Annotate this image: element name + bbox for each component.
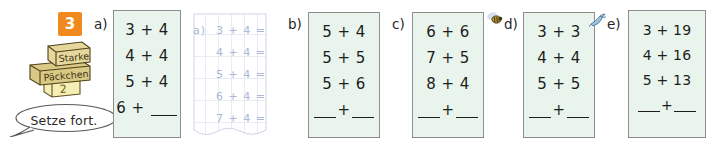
equation-row-open[interactable]: + [528,103,589,118]
equation-row: 4 + 4 [125,49,169,64]
grid-label: a) [193,24,206,37]
exercise-number-badge: 3 [58,12,82,36]
open-row-operator: + [661,97,673,113]
part-label-c: c) [392,16,405,32]
open-row-operator: + [441,101,454,119]
card-c: 6 + 6 7 + 5 8 + 4 + [412,12,484,138]
card-a: 3 + 4 4 + 4 5 + 4 6 + [113,10,181,138]
grid-equation-row: 6 + 4 = [216,90,266,103]
answer-blank[interactable] [567,104,589,118]
equation-row: 4 + 4 [537,51,581,66]
svg-text:2: 2 [59,83,67,96]
equation-row: 5 + 5 [322,51,366,66]
instruction-speech-bubble [8,103,120,137]
worksheet-page: 3 2 Päckchen Starke [0,0,715,153]
answer-blank[interactable] [418,104,440,118]
starke-paeckchen-logo: 2 Päckchen Starke [20,40,96,100]
part-label-e: e) [607,16,621,32]
equation-row-open[interactable]: + [417,103,478,118]
answer-blank[interactable] [314,104,336,118]
grid-equation-row: 5 + 4 = [216,68,266,81]
bird-icon [589,12,609,32]
grid-equation-row: 4 + 4 = [216,46,266,59]
open-row-prefix: 6 + [116,99,150,117]
logo-block-top: Starke [48,42,90,66]
grid-equation-row: 7 + 4 = [216,112,266,125]
answer-blank[interactable] [638,98,660,112]
equation-row-open[interactable]: + [637,98,697,112]
open-row-operator: + [552,101,565,119]
open-row-operator: + [337,101,350,119]
part-label-b: b) [288,16,302,32]
equation-row-open[interactable]: 6 + [116,101,178,116]
card-b: 5 + 4 5 + 5 5 + 6 + [308,12,380,138]
equation-row: 5 + 6 [322,77,366,92]
bee-icon [487,10,505,31]
part-label-a: a) [94,16,108,32]
equation-row: 5 + 4 [322,25,366,40]
answer-blank[interactable] [674,98,696,112]
equation-row: 8 + 4 [426,77,470,92]
answer-blank[interactable] [151,102,177,116]
answer-blank[interactable] [352,104,374,118]
equation-row: 5 + 5 [537,77,581,92]
card-e: 3 + 19 4 + 16 5 + 13 + [628,10,706,138]
equation-row: 3 + 19 [643,23,692,37]
equation-row: 3 + 4 [125,23,169,38]
card-d: 3 + 3 4 + 4 5 + 5 + [523,12,595,138]
equation-row: 5 + 13 [643,73,692,87]
equation-row-open[interactable]: + [313,103,374,118]
grid-equation-row: 3 + 4 = [216,24,266,37]
equation-row: 4 + 16 [643,48,692,62]
equation-row: 7 + 5 [426,51,470,66]
equation-row: 6 + 6 [426,25,470,40]
answer-blank[interactable] [529,104,551,118]
equation-row: 3 + 3 [537,25,581,40]
answer-blank[interactable] [456,104,478,118]
equation-row: 5 + 4 [125,75,169,90]
part-label-d: d) [504,16,518,32]
